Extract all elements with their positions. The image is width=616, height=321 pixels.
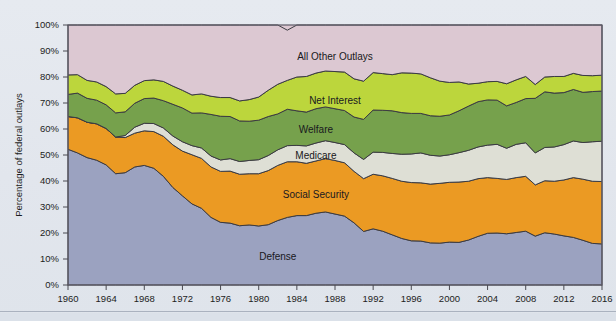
x-tick-label: 1988 — [324, 293, 345, 304]
series-label-welfare: Welfare — [299, 124, 334, 135]
x-tick-label: 1960 — [57, 293, 78, 304]
x-tick-label: 2008 — [515, 293, 536, 304]
y-tick-label: 40% — [40, 175, 60, 186]
y-tick-label: 10% — [40, 253, 60, 264]
series-label-medicare: Medicare — [295, 150, 337, 161]
x-tick-label: 2016 — [591, 293, 612, 304]
x-tick-label: 1968 — [134, 293, 155, 304]
y-tick-label: 100% — [35, 19, 60, 30]
bottom-strip — [0, 313, 616, 321]
y-tick-label: 50% — [40, 149, 60, 160]
series-label-all-other-outlays: All Other Outlays — [297, 51, 373, 62]
y-tick-label: 30% — [40, 201, 60, 212]
y-tick-label: 90% — [40, 45, 60, 56]
y-tick-label: 80% — [40, 71, 60, 82]
x-tick-label: 1972 — [172, 293, 193, 304]
y-tick-label: 0% — [45, 279, 59, 290]
x-axis: 1960196419681972197619801984198819921996… — [57, 285, 612, 304]
series-label-defense: Defense — [259, 251, 297, 262]
chart-figure: 0%10%20%30%40%50%60%70%80%90%100% 196019… — [0, 0, 616, 321]
stacked-area-chart: 0%10%20%30%40%50%60%70%80%90%100% 196019… — [0, 0, 616, 321]
y-tick-label: 20% — [40, 227, 60, 238]
x-tick-label: 1996 — [401, 293, 422, 304]
y-tick-label: 70% — [40, 97, 60, 108]
x-tick-label: 1984 — [286, 293, 307, 304]
x-tick-label: 1976 — [210, 293, 231, 304]
x-tick-label: 2012 — [553, 293, 574, 304]
x-tick-label: 1964 — [96, 293, 117, 304]
x-tick-label: 1992 — [363, 293, 384, 304]
x-tick-label: 2000 — [439, 293, 460, 304]
y-tick-label: 60% — [40, 123, 60, 134]
y-axis: 0%10%20%30%40%50%60%70%80%90%100% — [35, 19, 68, 290]
x-tick-label: 1980 — [248, 293, 269, 304]
y-axis-title: Percentage of federal outlays — [13, 93, 24, 217]
series-label-social-security: Social Security — [283, 189, 349, 200]
bottom-divider — [0, 311, 616, 312]
x-tick-label: 2004 — [477, 293, 498, 304]
series-label-net-interest: Net Interest — [309, 95, 361, 106]
